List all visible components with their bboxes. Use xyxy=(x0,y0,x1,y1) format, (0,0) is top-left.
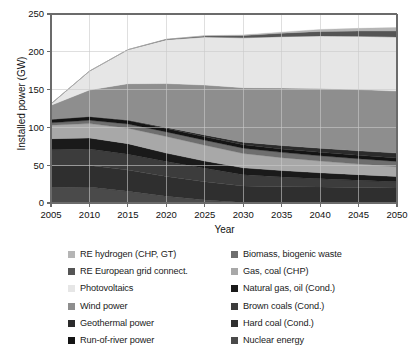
area-series-group xyxy=(51,28,397,203)
legend-item-label: Hard coal (Cond.) xyxy=(243,319,314,328)
legend-item[interactable]: Wind power xyxy=(68,302,231,311)
legend-item-label: Run-of-river power xyxy=(80,336,154,345)
chart-legend: RE hydrogen (CHP, GT)RE European grid co… xyxy=(68,246,408,350)
legend-item[interactable]: Gas, coal (CHP) xyxy=(231,267,409,276)
x-tick-label: 2020 xyxy=(156,209,177,220)
legend-item[interactable]: Nuclear energy xyxy=(231,336,409,345)
legend-item-label: Wind power xyxy=(80,302,128,311)
x-tick-label: 2040 xyxy=(310,209,331,220)
legend-item-label: Gas, coal (CHP) xyxy=(243,267,308,276)
legend-swatch-icon xyxy=(68,337,75,344)
legend-swatch-icon xyxy=(68,320,75,327)
legend-swatch-icon xyxy=(231,303,238,310)
legend-swatch-icon xyxy=(68,303,75,310)
y-tick-label: 100 xyxy=(28,122,44,133)
y-tick-label: 200 xyxy=(28,46,44,57)
legend-swatch-icon xyxy=(231,268,238,275)
legend-item-label: Natural gas, oil (Cond.) xyxy=(243,284,335,293)
x-tick-label: 2030 xyxy=(233,209,254,220)
x-tick-label: 2005 xyxy=(40,209,61,220)
legend-item[interactable]: RE European grid connect. xyxy=(68,267,231,276)
legend-item-label: Geothermal power xyxy=(80,319,154,328)
x-tick-label: 2025 xyxy=(194,209,215,220)
legend-item[interactable]: Hard coal (Cond.) xyxy=(231,319,409,328)
legend-swatch-icon xyxy=(231,285,238,292)
x-tick-label: 2035 xyxy=(271,209,292,220)
legend-item[interactable]: RE hydrogen (CHP, GT) xyxy=(68,250,231,259)
legend-item-label: RE European grid connect. xyxy=(80,267,188,276)
legend-item[interactable]: Geothermal power xyxy=(68,319,231,328)
legend-swatch-icon xyxy=(231,320,238,327)
y-tick-label: 50 xyxy=(33,160,44,171)
legend-swatch-icon xyxy=(68,251,75,258)
y-tick-label: 150 xyxy=(28,84,44,95)
legend-item-label: Biomass, biogenic waste xyxy=(243,250,342,259)
x-tick-label: 2050 xyxy=(386,209,407,220)
legend-item[interactable]: Biomass, biogenic waste xyxy=(231,250,409,259)
x-axis-title: Year xyxy=(51,224,398,235)
legend-item-label: Photovoltaics xyxy=(80,284,133,293)
legend-swatch-icon xyxy=(68,268,75,275)
y-tick-label: 250 xyxy=(28,8,44,19)
y-axis-title: Installed power (GW) xyxy=(16,39,27,169)
legend-swatch-icon xyxy=(231,337,238,344)
figure-container: 0501001502002502005201020152020202520302… xyxy=(0,0,413,354)
legend-item[interactable]: Photovoltaics xyxy=(68,284,231,293)
legend-item-label: Nuclear energy xyxy=(243,336,304,345)
x-tick-label: 2010 xyxy=(79,209,100,220)
y-tick-label: 0 xyxy=(39,197,44,208)
legend-item[interactable]: Run-of-river power xyxy=(68,336,231,345)
x-tick-label: 2015 xyxy=(117,209,138,220)
legend-item[interactable]: Natural gas, oil (Cond.) xyxy=(231,284,409,293)
legend-swatch-icon xyxy=(68,285,75,292)
legend-item-label: RE hydrogen (CHP, GT) xyxy=(80,250,176,259)
legend-item-label: Brown coals (Cond.) xyxy=(243,302,324,311)
legend-swatch-icon xyxy=(231,251,238,258)
x-tick-label: 2045 xyxy=(348,209,369,220)
legend-item[interactable]: Brown coals (Cond.) xyxy=(231,302,409,311)
